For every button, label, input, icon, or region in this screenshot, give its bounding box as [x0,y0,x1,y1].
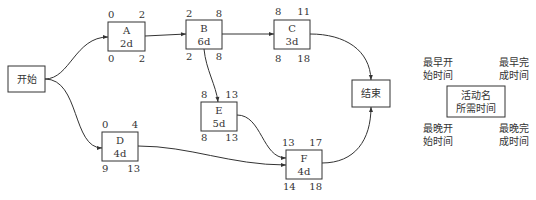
earliest-finish: 2 [139,9,145,20]
latest-start: 9 [102,163,108,174]
edge-start-a [45,37,108,79]
earliest-start: 13 [282,137,295,148]
latest-finish: 18 [297,53,310,64]
legend-ls-line1: 最晚开 [423,123,453,134]
activity-duration: 2d [120,38,133,49]
legend-ls-line2: 始时间 [423,135,453,147]
start-node: 开始 [8,66,45,92]
activity-duration: 3d [286,36,299,47]
earliest-start: 0 [102,119,108,130]
latest-finish: 8 [216,51,222,62]
edge-a-b [145,34,186,36]
activity-name: C [288,23,296,34]
activity-node-e: E 5d 8 13 8 13 [201,89,238,143]
legend-ef-line1: 最早完 [499,56,529,68]
activity-node-b: B 6d 2 8 2 8 [186,8,222,62]
latest-start: 14 [283,181,296,192]
edge-d-f [138,146,286,165]
latest-start: 8 [275,53,281,64]
legend-ef-line2: 成时间 [499,69,529,81]
legend: 最早开 始时间 最早完 成时间 活动名 所需时间 最晚开 始时间 最晚完 成时间 [423,56,529,147]
edge-c-end [310,34,371,80]
activity-duration: 6d [198,36,211,47]
latest-start: 0 [108,53,114,64]
latest-finish: 18 [309,181,322,192]
earliest-start: 8 [275,6,281,17]
latest-start: 2 [186,51,192,62]
earliest-finish: 17 [309,137,322,148]
earliest-finish: 4 [132,119,138,130]
activity-duration: 4d [114,148,127,159]
latest-finish: 13 [127,163,140,174]
activity-name: F [301,153,308,164]
activity-node-d: D 4d 0 4 9 13 [102,119,140,174]
activity-node-f: F 4d 13 17 14 18 [282,137,322,192]
legend-es-line2: 始时间 [423,69,453,81]
end-label: 结束 [361,87,381,99]
legend-es-line1: 最早开 [423,57,453,68]
earliest-finish: 8 [216,8,222,19]
legend-lf-line1: 最晚完 [499,122,529,134]
earliest-finish: 13 [225,89,238,100]
edge-e-f [237,115,286,158]
latest-start: 8 [201,132,207,143]
activity-name: E [215,105,222,116]
network-diagram: 开始 结束 A 2d 0 2 0 2 B 6d 2 8 2 8 C 3d 8 1… [0,0,536,200]
activity-node-a: A 2d 0 2 0 2 [108,9,145,64]
earliest-start: 2 [186,8,192,19]
edge-f-end [322,107,371,163]
end-node: 结束 [352,80,390,107]
earliest-finish: 11 [297,6,310,17]
latest-finish: 13 [225,132,238,143]
legend-lf-line2: 成时间 [499,135,529,147]
legend-box-line1: 活动名 [461,89,491,101]
activity-node-c: C 3d 8 11 8 18 [274,6,310,64]
earliest-start: 0 [108,9,114,20]
latest-finish: 2 [139,53,145,64]
start-label: 开始 [17,73,37,85]
activity-duration: 4d [298,166,311,177]
activity-name: B [200,23,207,34]
activity-name: A [122,25,131,36]
earliest-start: 8 [201,89,207,100]
diagram-svg: 开始 结束 A 2d 0 2 0 2 B 6d 2 8 2 8 C 3d 8 1… [0,0,536,200]
activity-duration: 5d [213,118,226,129]
edge-start-d [45,79,102,148]
activity-name: D [116,135,124,146]
legend-box-line2: 所需时间 [456,102,496,114]
